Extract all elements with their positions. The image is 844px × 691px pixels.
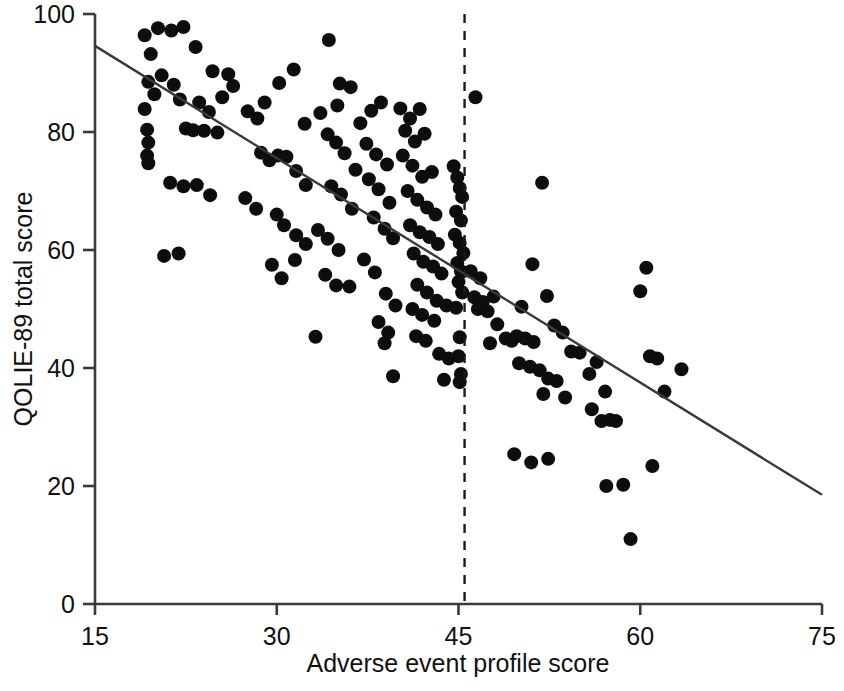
x-tick-label-30: 30 <box>263 622 291 650</box>
data-point <box>372 315 386 329</box>
data-point <box>393 101 407 115</box>
data-point <box>481 304 495 318</box>
y-tick-label-40: 40 <box>47 354 75 382</box>
data-point <box>372 182 386 196</box>
data-point <box>536 387 550 401</box>
data-point <box>507 447 521 461</box>
data-point <box>590 355 604 369</box>
x-tick-label-45: 45 <box>445 622 473 650</box>
data-point <box>141 136 155 150</box>
data-point <box>386 369 400 383</box>
data-point <box>527 335 541 349</box>
data-point <box>344 80 358 94</box>
data-point <box>250 111 264 125</box>
data-point <box>405 159 419 173</box>
data-point <box>674 362 688 376</box>
data-point <box>238 191 252 205</box>
data-point <box>155 68 169 82</box>
data-point <box>362 172 376 186</box>
data-point <box>140 123 154 137</box>
data-point <box>151 21 165 35</box>
y-tick-label-80: 80 <box>47 118 75 146</box>
data-point <box>141 156 155 170</box>
data-point <box>582 367 596 381</box>
data-point <box>431 237 445 251</box>
data-point <box>210 126 224 140</box>
data-point <box>483 336 497 350</box>
data-point <box>176 20 190 34</box>
data-point <box>157 249 171 263</box>
y-tick-label-60: 60 <box>47 236 75 264</box>
data-point <box>374 96 388 110</box>
data-point <box>645 459 659 473</box>
data-point <box>265 258 279 272</box>
data-point <box>206 64 220 78</box>
y-tick-labels: 020406080100 <box>33 0 75 618</box>
data-point <box>585 402 599 416</box>
data-point <box>541 452 555 466</box>
data-point <box>190 178 204 192</box>
data-point <box>419 334 433 348</box>
data-point <box>468 90 482 104</box>
data-point <box>287 62 301 76</box>
data-point <box>189 40 203 54</box>
data-point <box>379 287 393 301</box>
data-point <box>540 289 554 303</box>
data-point <box>277 218 291 232</box>
data-point <box>415 308 429 322</box>
y-tick-marks <box>83 14 95 604</box>
data-point <box>299 237 313 251</box>
data-point <box>226 79 240 93</box>
data-point <box>288 253 302 267</box>
data-point <box>167 78 181 92</box>
data-point <box>449 301 463 315</box>
data-point <box>388 298 402 312</box>
data-point <box>425 165 439 179</box>
data-point <box>368 265 382 279</box>
data-point <box>380 157 394 171</box>
data-point <box>353 116 367 130</box>
data-point <box>357 252 371 266</box>
data-point <box>435 267 449 281</box>
data-point <box>633 284 647 298</box>
data-point <box>428 208 442 222</box>
data-point <box>138 102 152 116</box>
data-point <box>616 478 630 492</box>
y-tick-label-100: 100 <box>33 0 75 28</box>
scatter-plot-svg: 1530456075 020406080100 Adverse event pr… <box>0 0 844 691</box>
x-tick-labels: 1530456075 <box>81 622 836 650</box>
data-point <box>427 314 441 328</box>
y-tick-label-20: 20 <box>47 472 75 500</box>
data-point <box>418 127 432 141</box>
data-point <box>378 336 392 350</box>
data-point <box>275 271 289 285</box>
data-point <box>330 98 344 112</box>
regression-line <box>95 46 822 495</box>
data-point <box>249 202 263 216</box>
data-point <box>215 90 229 104</box>
x-tick-label-75: 75 <box>808 622 836 650</box>
data-point <box>550 374 564 388</box>
data-point <box>203 188 217 202</box>
data-point <box>272 76 286 90</box>
data-point <box>322 33 336 47</box>
data-point <box>164 24 178 38</box>
x-tick-label-15: 15 <box>81 622 109 650</box>
figure-container: 1530456075 020406080100 Adverse event pr… <box>0 0 844 691</box>
data-point <box>396 149 410 163</box>
data-points <box>138 20 689 546</box>
data-point <box>147 87 161 101</box>
data-point <box>624 532 638 546</box>
data-point <box>455 190 469 204</box>
data-point <box>525 257 539 271</box>
x-tick-marks <box>95 604 822 615</box>
data-point <box>437 373 451 387</box>
data-point <box>599 479 613 493</box>
data-point <box>176 179 190 193</box>
x-tick-label-60: 60 <box>626 622 654 650</box>
data-point <box>369 147 383 161</box>
data-point <box>342 280 356 294</box>
data-point <box>524 455 538 469</box>
data-point <box>535 176 549 190</box>
data-point <box>258 96 272 110</box>
